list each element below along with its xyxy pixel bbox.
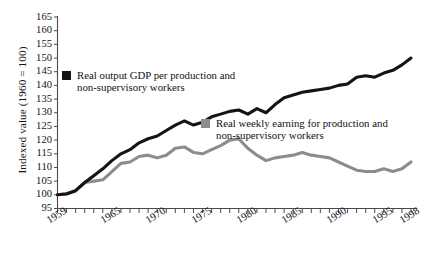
- y-axis-tick-label: 135: [22, 94, 52, 104]
- chart-container: Indexed value (1960 = 100) 1651601551501…: [0, 0, 427, 253]
- axes: [54, 16, 417, 213]
- y-axis-tick-label: 125: [22, 121, 52, 131]
- legend-label-gdp-line2: non-supervisory workers: [77, 81, 185, 93]
- legend-label-gdp: Real output GDP per production andnon-su…: [77, 69, 235, 94]
- y-axis-tick-label: 95: [22, 203, 52, 213]
- y-axis-tick-label: 110: [22, 162, 52, 172]
- legend-label-wage-line1: Real weekly earning for production and: [216, 117, 388, 129]
- legend-label-wage: Real weekly earning for production andno…: [216, 117, 388, 142]
- y-axis-tick-label: 145: [22, 66, 52, 76]
- y-axis-tick-label: 100: [22, 189, 52, 199]
- y-axis-tick-label: 130: [22, 107, 52, 117]
- y-axis-tick-label: 150: [22, 53, 52, 63]
- y-axis-tick-label: 140: [22, 80, 52, 90]
- y-axis-tick-label: 155: [22, 39, 52, 49]
- y-axis-tick-label: 165: [22, 12, 52, 22]
- legend-label-wage-line2: non-supervisory workers: [216, 129, 324, 141]
- legend-swatch-wage-icon: [201, 119, 210, 128]
- y-axis-tick-label: 105: [22, 176, 52, 186]
- legend-swatch-gdp-icon: [62, 71, 71, 80]
- y-axis-tick-label: 120: [22, 135, 52, 145]
- legend-label-gdp-line1: Real output GDP per production and: [77, 69, 235, 81]
- y-axis-tick-label: 115: [22, 148, 52, 158]
- y-axis-tick-label: 160: [22, 25, 52, 35]
- series-line-wage: [58, 139, 412, 195]
